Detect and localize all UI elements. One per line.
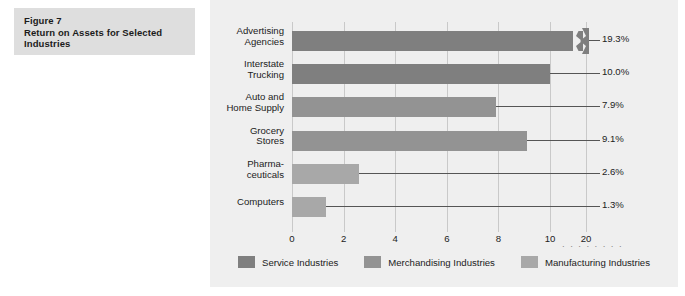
x-axis-tick-mark [550, 225, 551, 232]
x-axis-tick-label: 0 [289, 233, 294, 244]
bar-value-label: 7.9% [602, 99, 624, 110]
figure-number: Figure 7 [24, 15, 185, 27]
x-axis-tick-label: 4 [393, 233, 398, 244]
category-label-line: Pharma- [164, 159, 284, 170]
x-axis-tick-mark [498, 225, 499, 232]
legend-label: Merchandising Industries [388, 257, 495, 268]
bar [292, 164, 359, 184]
x-axis-tick-mark [344, 225, 345, 232]
chart-row: Computers1.3% [210, 192, 678, 222]
category-label: Computers [164, 197, 284, 208]
chart-row: GroceryStores9.1% [210, 126, 678, 156]
bar [292, 131, 527, 151]
bar [292, 64, 550, 84]
legend-item: Service Industries [238, 256, 338, 268]
legend-swatch [238, 256, 255, 268]
category-label-line: Computers [164, 197, 284, 208]
x-axis-break-dots: . . . . . . . . [562, 238, 623, 249]
bar [292, 31, 583, 51]
chart-row: AdvertisingAgencies19.3% [210, 26, 678, 56]
bar-value-label: 10.0% [602, 66, 629, 77]
x-axis-tick-label: 10 [545, 233, 556, 244]
value-leader-line [359, 173, 600, 174]
legend-swatch [364, 256, 381, 268]
category-label: InterstateTrucking [164, 59, 284, 81]
bar [292, 97, 496, 117]
x-axis-tick-label: 6 [444, 233, 449, 244]
x-axis-tick-label: 2 [341, 233, 346, 244]
bar-value-label: 1.3% [602, 199, 624, 210]
bar-value-label: 2.6% [602, 166, 624, 177]
x-axis-tick-mark [395, 225, 396, 232]
figure-title-line-2: Industries [24, 38, 185, 50]
x-axis-tick-label: 8 [496, 233, 501, 244]
chart-row: InterstateTrucking10.0% [210, 59, 678, 89]
legend-item: Manufacturing Industries [521, 256, 650, 268]
chart-panel: 024681020. . . . . . . .AdvertisingAgenc… [210, 0, 678, 287]
category-label-line: Trucking [164, 70, 284, 81]
bar [292, 197, 326, 217]
value-leader-line [550, 73, 600, 74]
legend-label: Manufacturing Industries [545, 257, 650, 268]
category-label: AdvertisingAgencies [164, 26, 284, 48]
value-leader-line [326, 206, 600, 207]
x-axis-tick-mark [586, 225, 587, 232]
category-label: GroceryStores [164, 126, 284, 148]
legend-item: Merchandising Industries [364, 256, 495, 268]
x-axis-tick-mark [447, 225, 448, 232]
category-label-line: Home Supply [164, 103, 284, 114]
category-label-line: Stores [164, 136, 284, 147]
legend-swatch [521, 256, 538, 268]
category-label-line: Agencies [164, 37, 284, 48]
bar-axis-break-marker [573, 28, 589, 54]
value-leader-line [527, 140, 600, 141]
bar-value-label: 9.1% [602, 133, 624, 144]
category-label: Auto andHome Supply [164, 92, 284, 114]
legend-label: Service Industries [262, 257, 338, 268]
value-leader-line [496, 106, 600, 107]
plot-area: 024681020. . . . . . . .AdvertisingAgenc… [210, 0, 678, 287]
chart-row: Pharma-ceuticals2.6% [210, 159, 678, 189]
figure-title-line-1: Return on Assets for Selected [24, 27, 185, 39]
chart-legend: Service IndustriesMerchandising Industri… [210, 256, 678, 268]
x-axis-tick-mark [292, 225, 293, 232]
category-label: Pharma-ceuticals [164, 159, 284, 181]
bar-value-label: 19.3% [602, 33, 629, 44]
chart-row: Auto andHome Supply7.9% [210, 92, 678, 122]
category-label-line: ceuticals [164, 170, 284, 181]
